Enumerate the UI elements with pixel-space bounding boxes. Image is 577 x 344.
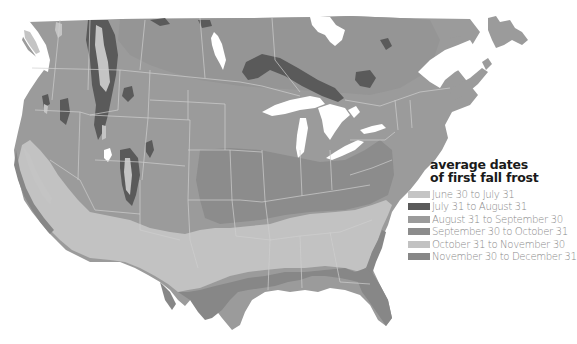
legend-swatch <box>408 191 430 198</box>
legend-item-june-july: June 30 to July 31 <box>430 188 566 200</box>
legend-label: October 31 to November 30 <box>432 239 565 250</box>
legend-item-july-august: July 31 to August 31 <box>430 201 566 213</box>
legend-label: September 30 to October 31 <box>432 226 568 237</box>
legend-swatch <box>408 241 430 248</box>
legend-label: July 31 to August 31 <box>432 201 527 212</box>
legend-item-october-november: October 31 to November 30 <box>430 238 566 250</box>
legend: average dates of first fall frost June 3… <box>430 158 566 263</box>
legend-swatch <box>408 203 430 210</box>
legend-label: August 31 to September 30 <box>432 214 563 225</box>
landmass-newfoundland <box>488 16 528 48</box>
legend-label: November 30 to December 31 <box>432 251 577 262</box>
legend-label: June 30 to July 31 <box>432 189 514 200</box>
legend-swatch <box>408 253 430 260</box>
legend-swatch <box>408 216 430 223</box>
legend-swatch <box>408 228 430 235</box>
legend-title: average dates of first fall frost <box>430 158 566 184</box>
legend-item-november-december: November 30 to December 31 <box>430 251 566 263</box>
legend-item-august-september: August 31 to September 30 <box>430 213 566 225</box>
landmass-cape-breton <box>482 58 492 70</box>
legend-title-line2: of first fall frost <box>430 171 566 184</box>
legend-item-september-october: September 30 to October 31 <box>430 226 566 238</box>
